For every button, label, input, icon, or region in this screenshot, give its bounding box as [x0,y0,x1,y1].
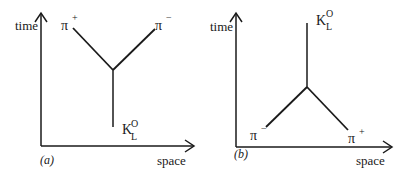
kaon-label-a: K O L [122,118,138,142]
svg-text:O: O [326,8,333,19]
time-axis-label-b: time [210,19,233,34]
pi-plus-worldline-a [73,28,113,70]
svg-text:O: O [131,118,138,129]
pi-plus-worldline-b [307,87,348,130]
pi-minus-label-a: π− [155,12,172,33]
pi-minus-worldline-b [266,87,307,127]
svg-text:L: L [131,131,137,142]
panel-tag-a: (a) [40,153,54,167]
kaon-label-b: K O L [316,8,333,32]
diagram-svg: time space (a) π+ π− K O L time space [0,0,409,175]
panel-a: time space (a) π+ π− K O L [15,12,194,168]
space-axis-label-a: space [157,153,186,168]
pi-plus-label-b: π+ [348,126,365,146]
time-axis-label-a: time [15,18,38,33]
svg-text:K: K [316,13,326,28]
pi-minus-label-b: π− [250,123,267,143]
pi-minus-worldline-a [113,29,155,70]
panel-b: time space (b) K O L π− π+ [210,8,392,168]
panel-tag-b: (b) [234,147,248,161]
space-axis-label-b: space [356,153,385,168]
feynman-diagram-figure: time space (a) π+ π− K O L time space [0,0,409,175]
svg-text:L: L [326,21,332,32]
